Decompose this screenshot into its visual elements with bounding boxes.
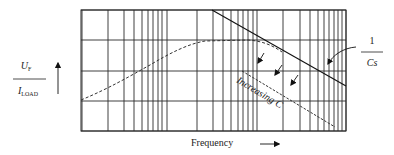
y-label-denominator: ILOAD <box>17 85 39 97</box>
plot-grid <box>81 10 346 131</box>
x-axis-label: Frequency <box>191 137 279 148</box>
fraction-numerator: 1 <box>370 35 375 46</box>
shift-arrow-icon <box>291 75 298 85</box>
grid-frame <box>81 10 346 131</box>
x-label-text: Frequency <box>191 137 233 148</box>
shift-arrows <box>258 53 298 85</box>
impedance-frequency-diagram: Increasing C 1 Cs UF ILOAD Frequency <box>0 0 394 155</box>
y-axis-label: UF ILOAD <box>13 60 58 97</box>
y-label-numerator: UF <box>21 60 32 72</box>
shift-arrow-icon <box>258 53 264 63</box>
shift-arrow-icon <box>275 65 282 75</box>
capacitive-asymptote-line <box>212 10 346 86</box>
increased-capacitance-line <box>242 71 335 127</box>
fraction-denominator: Cs <box>367 57 378 68</box>
